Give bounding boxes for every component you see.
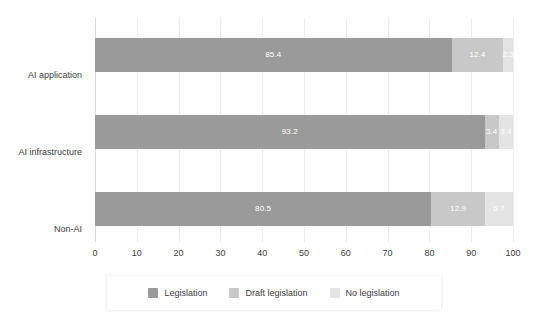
axis-tick-label: 40: [257, 248, 267, 258]
bar-segment[interactable]: 3.4: [485, 115, 499, 149]
bar-rows: 85.412.42.393.23.43.480.512.96.7: [95, 18, 513, 242]
category-axis-labels: AI application AI infrastructure Non-AI: [0, 18, 90, 242]
bar-segment[interactable]: 93.2: [95, 115, 485, 149]
bar-segment[interactable]: 3.4: [499, 115, 513, 149]
legend-item-legislation[interactable]: Legislation: [148, 288, 207, 298]
bar-value-label: 3.4: [500, 128, 511, 136]
bar-segment[interactable]: 85.4: [95, 38, 452, 72]
axis-tick-label: 90: [466, 248, 476, 258]
axis-tick-label: 0: [92, 248, 97, 258]
legend-swatch-icon: [229, 288, 239, 298]
axis-tick-label: 20: [174, 248, 184, 258]
bar-value-label: 12.4: [470, 51, 486, 59]
bar-segment[interactable]: 80.5: [95, 192, 431, 226]
legend-item-no-legislation[interactable]: No legislation: [330, 288, 400, 298]
axis-tick-label: 10: [132, 248, 142, 258]
bar-segment[interactable]: 12.4: [452, 38, 504, 72]
legend-item-draft-legislation[interactable]: Draft legislation: [229, 288, 307, 298]
axis-tick-label: 30: [215, 248, 225, 258]
legend-label: No legislation: [346, 289, 400, 298]
bar-value-label: 93.2: [282, 128, 298, 136]
bar-row: 85.412.42.3: [95, 38, 513, 72]
bar-value-label: 12.9: [450, 205, 466, 213]
bar-segment[interactable]: 6.7: [485, 192, 513, 226]
legend-swatch-icon: [148, 288, 158, 298]
bar-value-label: 3.4: [486, 128, 497, 136]
bar-segment[interactable]: 2.3: [503, 38, 513, 72]
category-label-non-ai: Non-AI: [54, 224, 82, 234]
legend-label: Legislation: [164, 289, 207, 298]
bar-value-label: 80.5: [255, 205, 271, 213]
plot-area: 85.412.42.393.23.43.480.512.96.7: [95, 18, 513, 242]
axis-tick-label: 100: [505, 248, 520, 258]
axis-tick-label: 60: [341, 248, 351, 258]
bar-row: 93.23.43.4: [95, 115, 513, 149]
axis-tick-label: 70: [383, 248, 393, 258]
value-axis: 0102030405060708090100: [95, 242, 513, 264]
legend-label: Draft legislation: [245, 289, 307, 298]
legend-swatch-icon: [330, 288, 340, 298]
bar-value-label: 6.7: [493, 205, 504, 213]
category-label-ai-infrastructure: AI infrastructure: [18, 147, 82, 157]
chart-legend: Legislation Draft legislation No legisla…: [107, 276, 441, 310]
bar-value-label: 2.3: [502, 51, 513, 59]
axis-tick-label: 50: [299, 248, 309, 258]
stacked-bar-chart: AI application AI infrastructure Non-AI …: [0, 0, 547, 330]
bar-row: 80.512.96.7: [95, 192, 513, 226]
category-label-ai-application: AI application: [28, 70, 82, 80]
bar-segment[interactable]: 12.9: [431, 192, 485, 226]
bar-value-label: 85.4: [265, 51, 281, 59]
axis-tick-label: 80: [424, 248, 434, 258]
